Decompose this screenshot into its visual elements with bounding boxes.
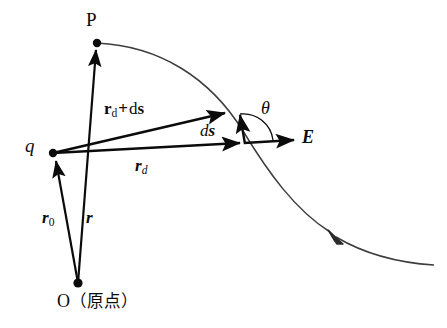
label-E-field-text: E bbox=[302, 127, 314, 147]
E-vector bbox=[244, 140, 294, 143]
label-point-p: P bbox=[86, 10, 97, 29]
label-r: r bbox=[86, 209, 93, 226]
label-ds: ds bbox=[200, 122, 215, 139]
ds-vector bbox=[240, 115, 245, 144]
label-r-text: r bbox=[86, 208, 93, 227]
label-rd-plus-ds: rd+ds bbox=[104, 100, 144, 120]
label-rd-plus-ds-plus: + bbox=[117, 99, 129, 118]
label-rd-plus-ds-s: s bbox=[138, 99, 145, 118]
label-rd-plus-ds-d: d bbox=[129, 99, 138, 118]
label-origin-paren-close: ） bbox=[121, 292, 138, 311]
electric-field-line-lower bbox=[336, 237, 434, 265]
label-r0: r0 bbox=[42, 209, 54, 229]
label-r0-subscript: 0 bbox=[49, 216, 55, 229]
label-theta: θ bbox=[261, 99, 270, 117]
label-rd-plus-ds-r: r bbox=[104, 99, 112, 118]
r-vector bbox=[78, 50, 96, 283]
point-p-node bbox=[93, 39, 101, 47]
r0-vector bbox=[56, 161, 78, 283]
label-rd-r: r bbox=[135, 156, 142, 175]
label-ds-s: s bbox=[209, 121, 216, 140]
label-point-p-text: P bbox=[86, 9, 97, 30]
label-rd-subscript: d bbox=[142, 164, 148, 177]
label-origin-word: 原点 bbox=[87, 292, 121, 311]
label-r0-r: r bbox=[42, 208, 49, 227]
diagram-canvas bbox=[0, 0, 447, 328]
label-E-field: E bbox=[302, 128, 314, 146]
label-origin-paren-open: （ bbox=[70, 292, 87, 311]
physics-diagram-figure: P q rd+ds ds θ E rd r0 r O（原点） bbox=[0, 0, 447, 328]
label-charge-q: q bbox=[25, 136, 35, 155]
label-ds-d: d bbox=[200, 121, 209, 140]
label-theta-text: θ bbox=[261, 98, 270, 118]
label-origin-o: O bbox=[57, 291, 70, 311]
field-line-direction-arrowhead bbox=[328, 230, 343, 244]
label-rd: rd bbox=[135, 157, 147, 177]
charge-q-node bbox=[49, 149, 57, 157]
label-charge-q-text: q bbox=[25, 135, 35, 156]
origin-o-node bbox=[73, 278, 82, 287]
label-origin: O（原点） bbox=[57, 292, 138, 311]
rd-vector bbox=[53, 143, 240, 153]
